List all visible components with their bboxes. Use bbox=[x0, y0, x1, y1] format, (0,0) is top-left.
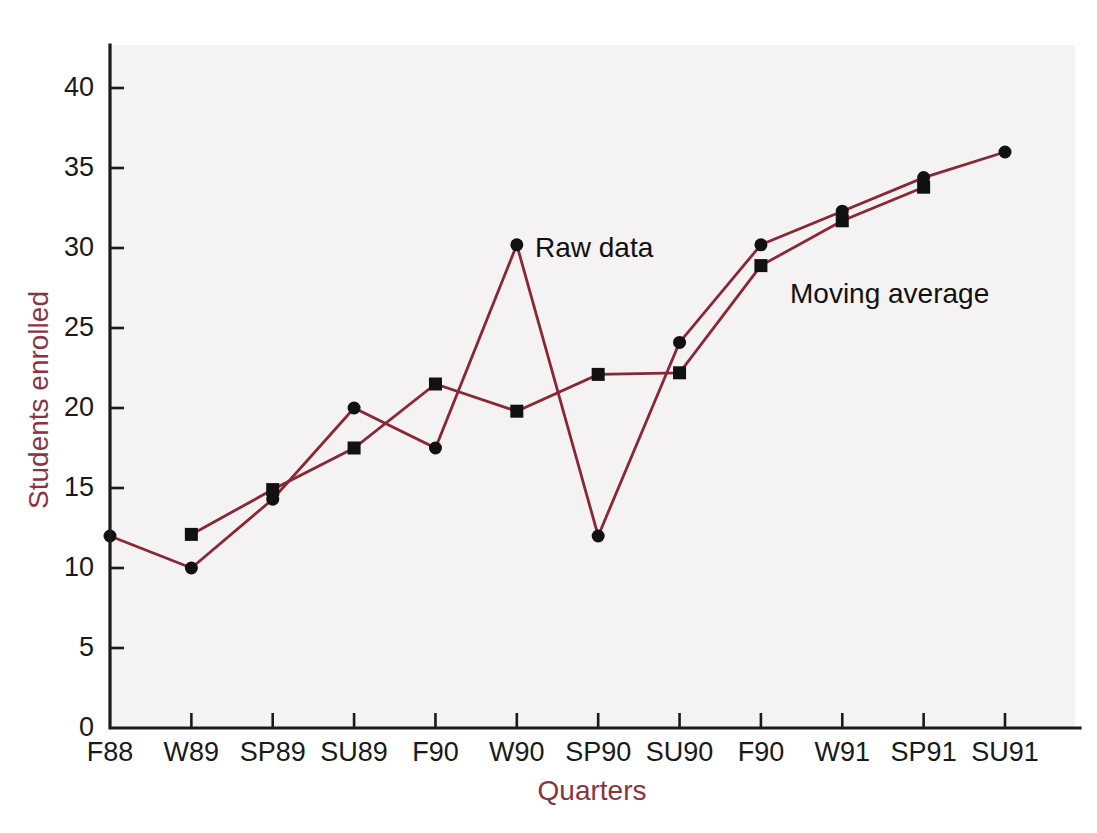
data-point-moving-average bbox=[266, 483, 279, 496]
data-point-moving-average bbox=[348, 442, 361, 455]
x-axis-tick-label: SP89 bbox=[240, 737, 306, 767]
data-point-moving-average bbox=[592, 368, 605, 381]
x-axis-tick-label: F90 bbox=[738, 737, 785, 767]
plot-background bbox=[110, 45, 1075, 728]
x-axis-tick-label: F90 bbox=[412, 737, 459, 767]
x-axis-tick-label: SU89 bbox=[320, 737, 388, 767]
data-point-moving-average bbox=[917, 181, 930, 194]
data-point-raw bbox=[673, 336, 686, 349]
data-point-raw bbox=[429, 442, 442, 455]
annotation-moving-average: Moving average bbox=[790, 278, 989, 309]
x-axis-tick-label: SP90 bbox=[565, 737, 631, 767]
x-axis-title: Quarters bbox=[538, 775, 647, 806]
x-axis-tick-label: F88 bbox=[87, 737, 134, 767]
data-point-moving-average bbox=[185, 528, 198, 541]
data-point-moving-average bbox=[673, 366, 686, 379]
x-axis-tick-label: SU91 bbox=[971, 737, 1039, 767]
y-axis-tick-label: 15 bbox=[64, 472, 94, 502]
y-axis-tick-label: 25 bbox=[64, 312, 94, 342]
data-point-raw bbox=[185, 562, 198, 575]
x-axis-tick-label: SU90 bbox=[646, 737, 714, 767]
data-point-raw bbox=[592, 530, 605, 543]
data-point-moving-average bbox=[836, 214, 849, 227]
y-axis-tick-label: 35 bbox=[64, 152, 94, 182]
y-axis-tick-label: 10 bbox=[64, 552, 94, 582]
data-point-moving-average bbox=[754, 259, 767, 272]
data-point-moving-average bbox=[429, 378, 442, 391]
x-axis-tick-label: W90 bbox=[489, 737, 545, 767]
chart-figure: 0510152025303540F88W89SP89SU89F90W90SP90… bbox=[0, 0, 1097, 833]
y-axis-tick-label: 40 bbox=[64, 72, 94, 102]
data-point-raw bbox=[999, 146, 1012, 159]
y-axis-title: Students enrolled bbox=[23, 291, 54, 509]
x-axis-tick-label: SP91 bbox=[891, 737, 957, 767]
data-point-raw bbox=[510, 238, 523, 251]
y-axis-tick-label: 5 bbox=[79, 632, 94, 662]
data-point-raw bbox=[754, 238, 767, 251]
data-point-raw bbox=[348, 402, 361, 415]
data-point-moving-average bbox=[510, 405, 523, 418]
x-axis-tick-label: W91 bbox=[815, 737, 871, 767]
y-axis-tick-label: 20 bbox=[64, 392, 94, 422]
x-axis-tick-label: W89 bbox=[164, 737, 220, 767]
y-axis-tick-label: 30 bbox=[64, 232, 94, 262]
annotation-raw-data: Raw data bbox=[535, 232, 654, 263]
